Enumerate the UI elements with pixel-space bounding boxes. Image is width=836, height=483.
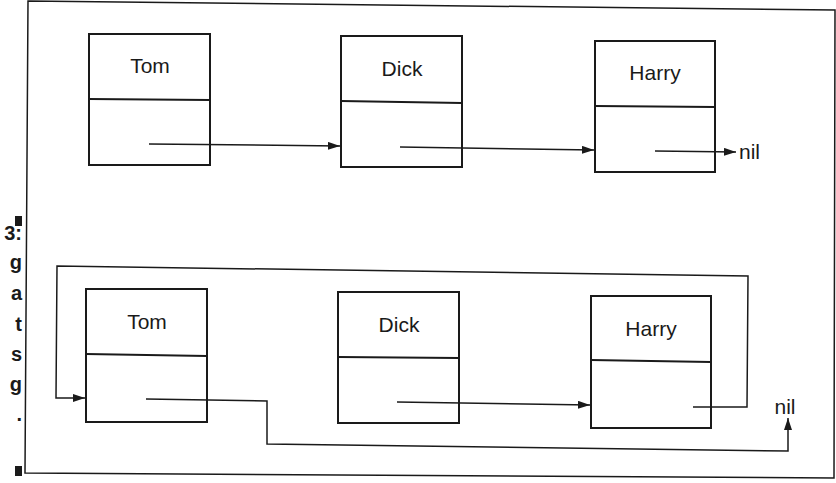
pointer-arrow-nil [146, 399, 788, 451]
node-tom [86, 289, 207, 422]
circular-linked-list-diagram [56, 266, 788, 451]
singly-linked-list-diagram [89, 34, 736, 172]
node-label-dick: Dick [379, 313, 420, 336]
nil-label: nil [774, 395, 795, 418]
node-harry [591, 296, 711, 428]
node-label-tom: Tom [127, 310, 167, 333]
node-label-tom: Tom [130, 54, 170, 77]
linked-list-figure: Tom Dick Harry nil Tom Dick Harry nil [0, 0, 836, 483]
node-label-harry: Harry [629, 61, 681, 84]
node-label-harry: Harry [625, 317, 677, 340]
node-label-dick: Dick [382, 57, 423, 80]
nil-label: nil [739, 140, 760, 163]
pointer-arrow [397, 402, 590, 405]
pointer-arrow [149, 144, 340, 146]
pointer-arrow-nil [655, 151, 736, 152]
pointer-arrow [400, 147, 594, 150]
